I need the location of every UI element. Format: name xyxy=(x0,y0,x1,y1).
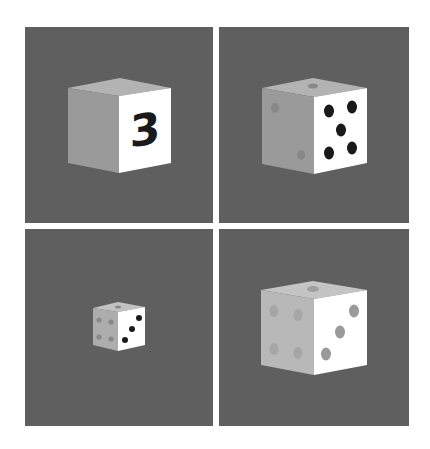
pip-right-2 xyxy=(129,326,135,332)
pip-left-2 xyxy=(294,309,303,321)
panel-top-right xyxy=(219,27,409,223)
pip-left-1 xyxy=(271,103,279,113)
die-left-face xyxy=(262,88,314,174)
pip-right-3 xyxy=(321,348,331,361)
pip-right-3 xyxy=(122,337,128,343)
pip-left-1 xyxy=(270,305,279,317)
panel-bottom-left xyxy=(25,229,213,426)
pip-right-2 xyxy=(335,326,345,339)
pip-left-1 xyxy=(96,317,101,322)
pip-right-3 xyxy=(336,124,346,137)
pip-left-2 xyxy=(297,150,305,160)
pip-right-1 xyxy=(136,315,142,321)
pip-right-4 xyxy=(324,147,334,160)
cube-left-face xyxy=(68,88,119,173)
die-five xyxy=(219,27,409,223)
pip-left-4 xyxy=(108,336,113,341)
pip-left-3 xyxy=(270,343,279,355)
die-left-face xyxy=(261,290,314,375)
cube-numeral-three: 3 xyxy=(25,27,213,223)
pip-right-5 xyxy=(347,142,357,155)
panel-bottom-right xyxy=(219,229,409,426)
cube-numeral-label: 3 xyxy=(130,102,161,158)
pip-top xyxy=(307,286,319,292)
pip-right-2 xyxy=(347,101,357,114)
die-three-small xyxy=(25,229,213,426)
panel-top-left: 3 xyxy=(25,27,213,223)
pip-left-4 xyxy=(294,347,303,359)
pip-top xyxy=(308,84,318,89)
pip-top xyxy=(115,306,121,309)
pip-right-1 xyxy=(324,105,334,118)
pip-right-1 xyxy=(349,305,359,318)
die-left-face xyxy=(93,308,118,351)
pip-left-2 xyxy=(108,319,113,324)
die-three-faded xyxy=(219,229,409,426)
pip-left-3 xyxy=(96,334,101,339)
